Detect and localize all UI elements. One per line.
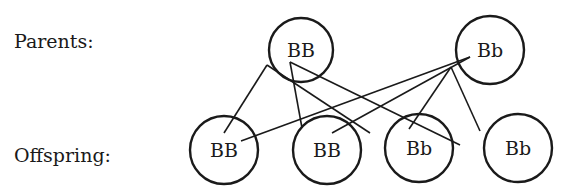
offspring-genotype-label: BB	[210, 139, 238, 161]
offspring-node-2: BB	[293, 116, 361, 184]
parent-node-1: BB	[269, 18, 333, 82]
connection-line-p1-o4	[290, 62, 460, 145]
offspring-nodes: BBBBBbBb	[190, 114, 552, 184]
offspring-node-4: Bb	[484, 114, 552, 182]
offspring-node-1: BB	[190, 116, 258, 184]
offspring-genotype-label: Bb	[505, 137, 531, 159]
parent-nodes: BBBb	[269, 16, 524, 84]
parent-genotype-label: BB	[287, 39, 315, 61]
connection-line-p1-o2	[290, 62, 302, 128]
parent-node-2: Bb	[456, 16, 524, 84]
connection-line-p2-o4	[451, 67, 480, 131]
parent-genotype-label: Bb	[477, 39, 503, 61]
offspring-genotype-label: BB	[313, 139, 341, 161]
punnett-cross-diagram: BBBb BBBBBbBb	[0, 0, 583, 195]
connection-lines	[224, 57, 480, 145]
offspring-genotype-label: Bb	[406, 137, 432, 159]
